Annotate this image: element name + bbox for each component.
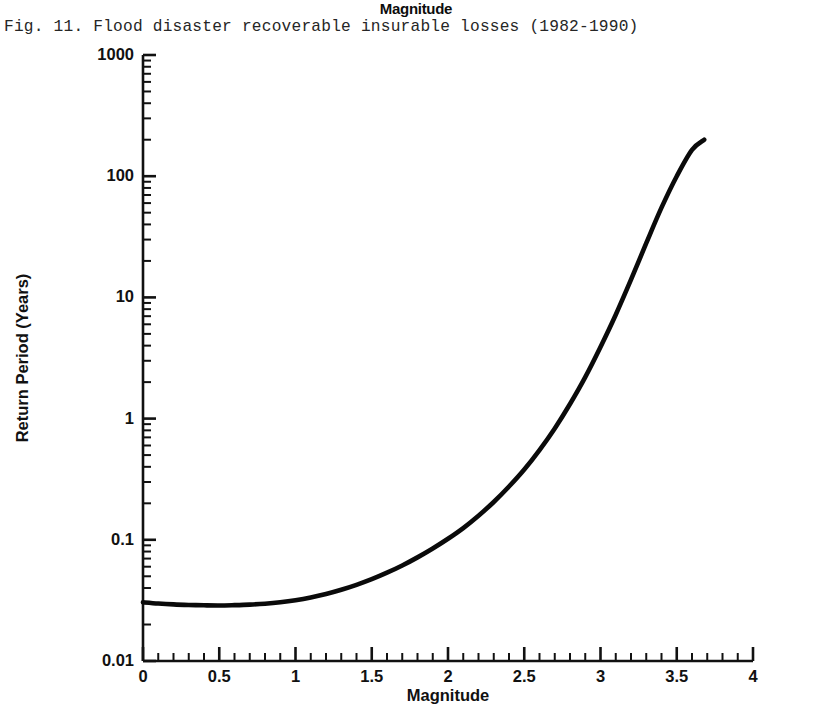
y-tick-label: 10 (116, 288, 134, 306)
y-tick-label: 0.01 (102, 652, 134, 670)
x-axis-title: Magnitude (407, 686, 490, 704)
data-curve-line (143, 140, 704, 606)
y-tick-label: 100 (106, 167, 134, 185)
x-tick-label: 0 (138, 667, 147, 685)
x-tick-label: 2 (443, 667, 452, 685)
x-tick-label: 3 (596, 667, 605, 685)
y-tick-label: 0.1 (111, 531, 134, 549)
x-tick-label: 2.5 (513, 667, 536, 685)
y-tick-label: 1 (125, 410, 134, 428)
y-tick-label: 1000 (97, 46, 134, 64)
axis-lines (143, 55, 753, 661)
y-axis-title: Return Period (Years) (14, 274, 32, 443)
y-major-ticks (143, 55, 156, 661)
x-tick-label: 1.5 (360, 667, 383, 685)
chart-plot-area: 0.010.11101001000 00.511.522.533.54 Magn… (0, 0, 838, 720)
x-tick-label: 1 (291, 667, 300, 685)
x-tick-label: 0.5 (208, 667, 231, 685)
chart-svg (0, 0, 838, 720)
x-tick-label: 3.5 (665, 667, 688, 685)
x-tick-label: 4 (748, 667, 757, 685)
